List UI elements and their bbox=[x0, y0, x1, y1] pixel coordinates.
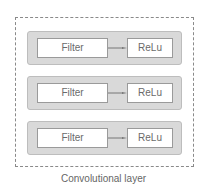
relu-box: ReLu bbox=[127, 128, 173, 148]
filter-box: Filter bbox=[37, 38, 108, 58]
container-caption: Convolutional layer bbox=[0, 173, 207, 184]
filter-relu-row: Filter ReLu bbox=[27, 31, 182, 65]
filter-box: Filter bbox=[37, 128, 108, 148]
arrow-right-icon bbox=[108, 47, 127, 49]
relu-box: ReLu bbox=[127, 83, 173, 103]
arrow-right-icon bbox=[108, 137, 127, 139]
filter-relu-row: Filter ReLu bbox=[27, 76, 182, 110]
filter-box: Filter bbox=[37, 83, 108, 103]
relu-box: ReLu bbox=[127, 38, 173, 58]
filter-relu-row: Filter ReLu bbox=[27, 121, 182, 155]
arrow-right-icon bbox=[108, 92, 127, 94]
